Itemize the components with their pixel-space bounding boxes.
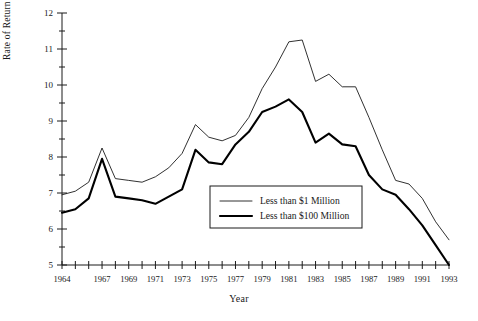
x-axis-title: Year: [0, 293, 478, 304]
chart-container: Rate of Return (Percentage) 567891011121…: [0, 0, 478, 321]
series-line-2: [62, 99, 449, 265]
x-tick-label: 1973: [174, 274, 191, 284]
y-tick-label: 10: [44, 80, 54, 90]
y-tick-label: 8: [49, 152, 54, 162]
x-tick-label: 1979: [254, 274, 271, 284]
x-tick-label: 1985: [334, 274, 351, 284]
x-tick-label: 1967: [93, 274, 111, 284]
x-tick-label: 1964: [53, 274, 71, 284]
chart-plot-area: 5678910111219641967196919711973197519771…: [0, 0, 478, 321]
legend-box: [210, 186, 362, 228]
x-tick-label: 1987: [360, 274, 378, 284]
x-tick-label: 1989: [387, 274, 404, 284]
x-tick-label: 1977: [227, 274, 245, 284]
x-tick-label: 1991: [414, 274, 431, 284]
y-tick-label: 11: [44, 44, 53, 54]
x-tick-label: 1975: [200, 274, 217, 284]
y-tick-label: 6: [49, 224, 54, 234]
legend-item-2-label: Less than $100 Million: [260, 210, 349, 221]
x-tick-label: 1983: [307, 274, 324, 284]
y-tick-label: 9: [49, 116, 54, 126]
y-tick-label: 12: [44, 8, 53, 18]
x-tick-label: 1993: [440, 274, 457, 284]
legend-item-1-label: Less than $1 Million: [260, 195, 340, 206]
y-tick-label: 7: [49, 188, 54, 198]
y-tick-label: 5: [49, 260, 54, 270]
x-tick-label: 1971: [147, 274, 164, 284]
x-tick-label: 1981: [280, 274, 297, 284]
x-tick-label: 1969: [120, 274, 137, 284]
